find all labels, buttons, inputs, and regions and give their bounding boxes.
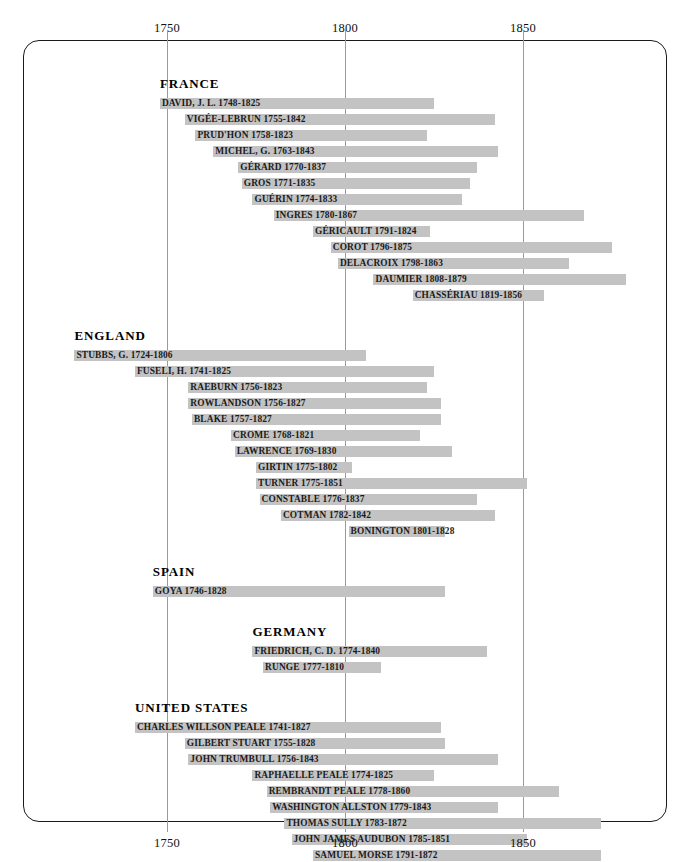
timeline-bar: GÉRICAULT 1791-1824 [313, 226, 430, 237]
timeline-bar-label: ROWLANDSON 1756-1827 [190, 398, 305, 409]
timeline-bar-label: TURNER 1775-1851 [258, 478, 343, 489]
timeline-bar-label: DAUMIER 1808-1879 [375, 274, 466, 285]
timeline-bar-label: SAMUEL MORSE 1791-1872 [315, 850, 438, 861]
timeline-bar: CHARLES WILLSON PEALE 1741-1827 [135, 722, 441, 733]
timeline-bar-label: JOHN JAMES AUDUBON 1785-1851 [294, 834, 451, 845]
timeline-bar-label: DELACROIX 1798-1863 [340, 258, 443, 269]
timeline-bar-label: FUSELI, H. 1741-1825 [137, 366, 231, 377]
timeline-bar-label: COTMAN 1782-1842 [283, 510, 371, 521]
timeline-bar: ROWLANDSON 1756-1827 [188, 398, 441, 409]
timeline-bar: FRIEDRICH, C. D. 1774-1840 [252, 646, 487, 657]
timeline-bar-label: FRIEDRICH, C. D. 1774-1840 [254, 646, 380, 657]
axis-tick-bot-1800: 1800 [332, 836, 358, 851]
timeline-bar: COTMAN 1782-1842 [281, 510, 495, 521]
timeline-bar: RUNGE 1777-1810 [263, 662, 380, 673]
timeline-bar-label: GÉRICAULT 1791-1824 [315, 226, 417, 237]
timeline-bar-label: DAVID, J. L. 1748-1825 [162, 98, 260, 109]
timeline-bar-label: RAEBURN 1756-1823 [190, 382, 282, 393]
timeline-bar-label: BONINGTON 1801-1828 [351, 526, 455, 537]
timeline-bar: GÉRARD 1770-1837 [238, 162, 477, 173]
timeline-bar: STUBBS, G. 1724-1806 [74, 350, 366, 361]
timeline-bar-label: THOMAS SULLY 1783-1872 [286, 818, 406, 829]
timeline-bar-label: BLAKE 1757-1827 [194, 414, 272, 425]
timeline-bar-label: CROME 1768-1821 [233, 430, 314, 441]
timeline-bar: FUSELI, H. 1741-1825 [135, 366, 434, 377]
timeline-bar: LAWRENCE 1769-1830 [235, 446, 452, 457]
timeline-bar-label: STUBBS, G. 1724-1806 [76, 350, 172, 361]
timeline-bar: BONINGTON 1801-1828 [349, 526, 445, 537]
group-title-spain: SPAIN [153, 564, 196, 580]
axis-tick-bot-1750: 1750 [154, 836, 180, 851]
timeline-bar: THOMAS SULLY 1783-1872 [284, 818, 601, 829]
timeline-bar: RAPHAELLE PEALE 1774-1825 [252, 770, 434, 781]
timeline-bar: GROS 1771-1835 [242, 178, 470, 189]
timeline-bar: GILBERT STUART 1755-1828 [185, 738, 445, 749]
timeline-bar: SAMUEL MORSE 1791-1872 [313, 850, 601, 861]
timeline-bar-label: PRUD'HON 1758-1823 [197, 130, 293, 141]
timeline-bar-label: RAPHAELLE PEALE 1774-1825 [254, 770, 393, 781]
timeline-bar: CONSTABLE 1776-1837 [260, 494, 477, 505]
timeline-bar: JOHN TRUMBULL 1756-1843 [188, 754, 498, 765]
timeline-chart: 175018001850 FRANCEDAVID, J. L. 1748-182… [0, 0, 690, 862]
timeline-bar: TURNER 1775-1851 [256, 478, 527, 489]
timeline-bar-label: CHASSÉRIAU 1819-1856 [415, 290, 522, 301]
timeline-bar: WASHINGTON ALLSTON 1779-1843 [270, 802, 498, 813]
timeline-bar-label: MICHEL, G. 1763-1843 [215, 146, 314, 157]
timeline-bar: COROT 1796-1875 [331, 242, 612, 253]
timeline-bar-label: GOYA 1746-1828 [155, 586, 227, 597]
timeline-bar-label: VIGÉE-LEBRUN 1755-1842 [187, 114, 306, 125]
group-title-germany: GERMANY [252, 624, 327, 640]
timeline-bar: GOYA 1746-1828 [153, 586, 445, 597]
timeline-bar: RAEBURN 1756-1823 [188, 382, 427, 393]
timeline-bar-label: JOHN TRUMBULL 1756-1843 [190, 754, 318, 765]
timeline-bar: MICHEL, G. 1763-1843 [213, 146, 498, 157]
timeline-bar: GUÉRIN 1774-1833 [252, 194, 462, 205]
timeline-bar-label: COROT 1796-1875 [333, 242, 412, 253]
timeline-bar-label: CHARLES WILLSON PEALE 1741-1827 [137, 722, 311, 733]
timeline-bar-label: GÉRARD 1770-1837 [240, 162, 326, 173]
axis-tick-bot-1850: 1850 [510, 836, 536, 851]
timeline-bar-label: GILBERT STUART 1755-1828 [187, 738, 316, 749]
timeline-bar: DAVID, J. L. 1748-1825 [160, 98, 434, 109]
timeline-bar: REMBRANDT PEALE 1778-1860 [267, 786, 559, 797]
timeline-bar: DELACROIX 1798-1863 [338, 258, 569, 269]
group-title-france: FRANCE [160, 76, 220, 92]
timeline-bar-label: REMBRANDT PEALE 1778-1860 [269, 786, 411, 797]
timeline-bar: CHASSÉRIAU 1819-1856 [413, 290, 545, 301]
timeline-bar-label: GIRTIN 1775-1802 [258, 462, 337, 473]
timeline-bar: JOHN JAMES AUDUBON 1785-1851 [292, 834, 527, 845]
timeline-bar: BLAKE 1757-1827 [192, 414, 441, 425]
group-title-england: ENGLAND [74, 328, 145, 344]
timeline-bar-label: GROS 1771-1835 [244, 178, 316, 189]
timeline-bar-label: INGRES 1780-1867 [276, 210, 357, 221]
timeline-bar: DAUMIER 1808-1879 [373, 274, 626, 285]
timeline-bar: PRUD'HON 1758-1823 [195, 130, 426, 141]
timeline-bar-label: RUNGE 1777-1810 [265, 662, 344, 673]
timeline-bar: GIRTIN 1775-1802 [256, 462, 352, 473]
group-title-united-states: UNITED STATES [135, 700, 248, 716]
timeline-bar: INGRES 1780-1867 [274, 210, 584, 221]
timeline-bar-label: CONSTABLE 1776-1837 [262, 494, 365, 505]
timeline-bar: CROME 1768-1821 [231, 430, 420, 441]
plot-area: FRANCEDAVID, J. L. 1748-1825VIGÉE-LEBRUN… [0, 0, 690, 862]
timeline-bar-label: LAWRENCE 1769-1830 [237, 446, 337, 457]
timeline-bar: VIGÉE-LEBRUN 1755-1842 [185, 114, 495, 125]
timeline-bar-label: GUÉRIN 1774-1833 [254, 194, 337, 205]
timeline-bar-label: WASHINGTON ALLSTON 1779-1843 [272, 802, 431, 813]
